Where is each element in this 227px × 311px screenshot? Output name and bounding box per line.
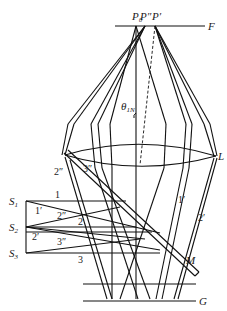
label-F: F <box>207 20 215 32</box>
rays-from-p-prime <box>155 26 210 124</box>
label-p0-text: P₀ <box>131 10 143 22</box>
ray-label-1-prime: 1′ <box>35 205 42 216</box>
ray-label-3-double-prime: 3″ <box>57 236 66 247</box>
ray-label-2-double-prime-left: 2″ <box>54 166 63 177</box>
label-S3: S3 <box>9 247 19 261</box>
label-p-prime: P′ <box>151 10 162 22</box>
ray-label-1: 1 <box>55 189 60 200</box>
ray-label-1-prime-right: 1′ <box>178 194 185 205</box>
label-S1: S1 <box>9 195 18 209</box>
ray-label-2: 2 <box>78 216 83 227</box>
label-theta: θ1N <box>121 100 135 114</box>
lens-top-surface <box>65 144 216 156</box>
ray-label-3: 3 <box>78 254 83 265</box>
ray-label-2-double-prime: 2″ <box>57 210 66 221</box>
label-S2: S2 <box>9 221 19 235</box>
label-L: L <box>217 150 224 162</box>
label-G: G <box>199 295 207 307</box>
label-M: M <box>185 254 196 266</box>
optical-diagram: P″ P₀ P′ F L M G θ1N S1 S2 S3 1 1′ 2″ 2 … <box>0 0 227 311</box>
ray-label-2-prime-right: 2′ <box>198 212 205 223</box>
ray-label-3-double-prime-upper: 3″ <box>83 163 92 174</box>
ray-label-2-prime: 2′ <box>32 231 39 242</box>
source-rays <box>26 201 160 253</box>
